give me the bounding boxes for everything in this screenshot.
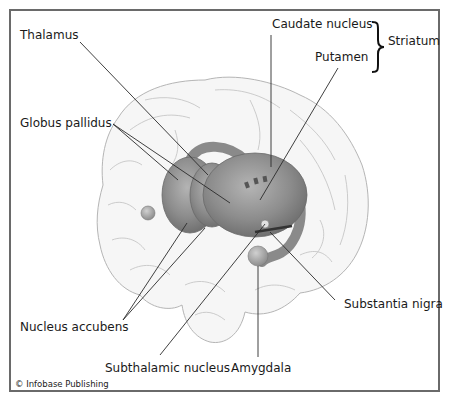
label-caudate-nucleus: Caudate nucleus: [272, 17, 373, 31]
label-substantia-nigra: Substantia nigra: [344, 297, 443, 311]
striatum-brace: [372, 22, 384, 72]
label-nucleus-accubens: Nucleus accubens: [20, 320, 129, 334]
olfactory-bulb-shape: [141, 206, 155, 220]
brain-illustration: [0, 0, 450, 406]
label-striatum: Striatum: [388, 34, 440, 48]
label-globus-pallidus: Globus pallidus: [20, 116, 112, 130]
label-amygdala: Amygdala: [231, 361, 291, 375]
label-thalamus: Thalamus: [20, 28, 79, 42]
label-subthalamic-nucleus: Subthalamic nucleus: [105, 361, 230, 375]
label-putamen: Putamen: [315, 50, 368, 64]
copyright-credit: © Infobase Publishing: [15, 379, 109, 389]
amygdala-shape: [248, 246, 268, 266]
